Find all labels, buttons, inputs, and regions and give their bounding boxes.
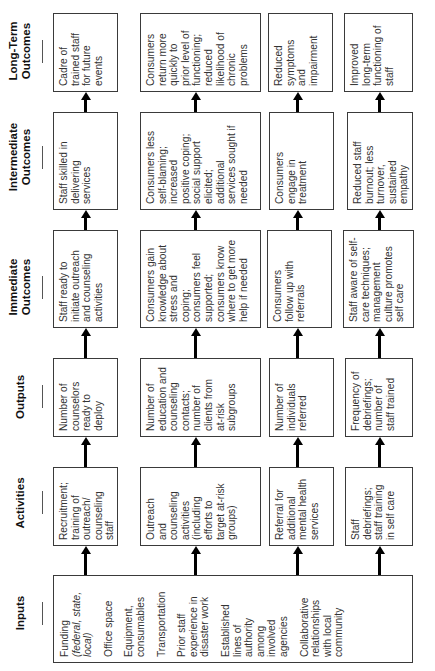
box-text: Staff debriefings; staff training in sel… <box>350 473 396 540</box>
box-text: Referral for additional mental health se… <box>274 473 320 540</box>
arrow-up-icon <box>296 98 299 112</box>
arrow-up-icon <box>378 98 381 112</box>
header-underline <box>42 276 43 299</box>
box-text: Cadre of trained staff for future events <box>58 19 104 86</box>
header-label: Outputs <box>14 375 27 419</box>
box-text: Outreach and counseling activities (incl… <box>145 473 238 540</box>
output-box-1: Number of counselors ready to deploy <box>53 358 118 437</box>
immediate-outcome-box-4: Staff aware of self- care techniques; ma… <box>343 230 414 328</box>
arrow-up-icon <box>296 334 299 358</box>
output-box-3: Number of individuals referred <box>269 358 334 437</box>
arrow-up-icon <box>84 216 87 230</box>
arrow-up-icon <box>378 552 381 575</box>
box-text: Consumers gain knowledge about stress an… <box>145 236 249 322</box>
input-item-office-space: Office space <box>103 580 115 657</box>
activity-box-2: Outreach and counseling activities (incl… <box>140 467 261 546</box>
immediate-outcome-box-2: Consumers gain knowledge about stress an… <box>140 230 261 328</box>
header-long-term-outcomes: Long-Term Outcomes <box>0 20 48 82</box>
activity-box-3: Referral for additional mental health se… <box>269 467 334 546</box>
box-text: Number of individuals referred <box>274 364 309 431</box>
header-intermediate-outcomes: Intermediate Outcomes <box>0 120 48 194</box>
activity-box-1: Recruitment; training of outreach/ couns… <box>53 467 118 546</box>
header-underline <box>42 491 43 514</box>
box-text: Staff aware of self- care techniques; ma… <box>348 236 406 322</box>
arrow-up-icon <box>84 98 87 112</box>
header-underline <box>42 602 43 625</box>
box-text: Consumers less self-blaming; increased p… <box>145 118 249 204</box>
immediate-outcome-box-3: Consumers follow up with referrals <box>267 230 332 328</box>
box-text: Reduced staff burnout; less turnover, su… <box>352 118 410 204</box>
input-item-collaborative-relationships: Collaborative relationships with local c… <box>299 580 345 657</box>
activity-box-4: Staff debriefings; staff training in sel… <box>345 467 413 546</box>
box-text: Recruitment; training of outreach/ couns… <box>58 473 116 540</box>
input-item-prior-experience: Prior staff experience in disaster work <box>176 580 211 657</box>
box-text: Staff skilled in delivering services <box>58 118 93 204</box>
input-item-transportation: Transportation <box>156 580 168 657</box>
box-text: Reduced symptoms and impairment <box>273 19 319 86</box>
header-outputs: Outputs <box>0 372 48 422</box>
arrow-up-icon <box>296 443 299 467</box>
arrow-up-icon <box>378 443 381 467</box>
header-underline <box>42 146 43 169</box>
box-text: Number of education and counseling conta… <box>145 364 238 431</box>
arrow-up-icon <box>194 216 197 230</box>
intermediate-outcome-box-3: Consumers engage in treatment <box>269 112 334 210</box>
long-term-outcome-box-1: Cadre of trained staff for future events <box>53 13 118 92</box>
input-item-funding: Funding(federal, state, local) <box>59 580 94 657</box>
arrow-up-icon <box>84 552 87 575</box>
arrow-up-icon <box>194 334 197 358</box>
inputs-box: Funding(federal, state, local) Office sp… <box>53 575 413 663</box>
header-inputs: Inputs <box>0 590 48 636</box>
arrow-up-icon <box>296 552 299 575</box>
arrow-up-icon <box>194 443 197 467</box>
arrow-up-icon <box>194 98 197 112</box>
output-box-4: Frequency of debriefings; number of staf… <box>345 358 413 437</box>
arrow-up-icon <box>84 443 87 467</box>
arrow-up-icon <box>194 552 197 575</box>
arrow-up-icon <box>296 216 299 230</box>
box-text: Staff ready to initiate outreach and cou… <box>58 236 104 322</box>
box-text: Consumers engage in treatment <box>274 118 309 204</box>
box-text: Frequency of debriefings; number of staf… <box>350 364 396 431</box>
intermediate-outcome-box-4: Reduced staff burnout; less turnover, su… <box>347 112 413 210</box>
header-activities: Activities <box>0 475 48 531</box>
header-underline <box>42 385 43 408</box>
arrow-up-icon <box>378 216 381 230</box>
box-text: Improved long-term functioning of staff <box>349 19 395 86</box>
box-text: Consumers follow up with referrals <box>272 236 307 322</box>
header-label: Inputs <box>14 596 27 631</box>
output-box-2: Number of education and counseling conta… <box>140 358 261 437</box>
intermediate-outcome-box-2: Consumers less self-blaming; increased p… <box>140 112 261 210</box>
header-label: Immediate Outcomes <box>7 259 33 316</box>
header-label: Activities <box>14 477 27 528</box>
long-term-outcome-box-2: Consumers return more quickly to prior l… <box>140 13 261 92</box>
input-item-lines-of-authority: Established lines of authority among inv… <box>220 580 290 657</box>
long-term-outcome-box-3: Reduced symptoms and impairment <box>268 13 333 92</box>
arrow-up-icon <box>84 334 87 358</box>
long-term-outcome-box-4: Improved long-term functioning of staff <box>344 13 413 92</box>
header-immediate-outcomes: Immediate Outcomes <box>0 252 48 322</box>
logic-model-diagram: Long-Term Outcomes Intermediate Outcomes… <box>0 0 435 671</box>
header-underline <box>42 40 43 63</box>
box-text: Consumers return more quickly to prior l… <box>145 19 249 86</box>
arrow-up-icon <box>378 334 381 358</box>
box-text: Number of counselors ready to deploy <box>58 364 104 431</box>
input-item-equipment: Equipment, consumables <box>123 580 146 657</box>
header-label: Long-Term Outcomes <box>7 21 33 80</box>
intermediate-outcome-box-1: Staff skilled in delivering services <box>53 112 118 210</box>
immediate-outcome-box-1: Staff ready to initiate outreach and cou… <box>53 230 118 328</box>
header-label: Intermediate Outcomes <box>7 123 33 191</box>
